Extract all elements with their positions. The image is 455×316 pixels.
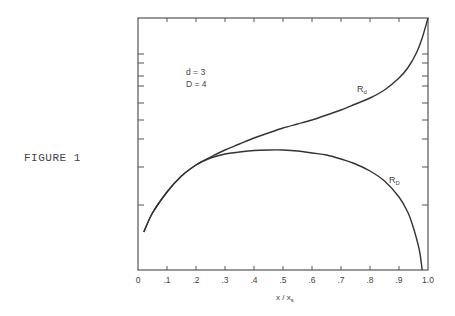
label-Rd: Rd — [357, 84, 367, 95]
curve-Rd — [144, 18, 428, 232]
curves — [144, 18, 428, 270]
x-tick-label: .5 — [279, 275, 286, 285]
x-axis-label: x / xs — [276, 293, 294, 303]
y-axis-ticks — [138, 54, 428, 205]
x-tick-label: 0 — [136, 275, 141, 285]
x-axis-ticks — [167, 18, 399, 270]
x-tick-label: .2 — [192, 275, 199, 285]
x-tick-label: .9 — [395, 275, 402, 285]
chart: 0.1.2.3.4.5.6.7.8.91.0 x / xs d = 3 D = … — [0, 0, 455, 316]
x-tick-label: .7 — [337, 275, 344, 285]
plot-frame — [138, 18, 428, 270]
annotation-d: d = 3 — [186, 67, 205, 77]
x-tick-label: .6 — [308, 275, 315, 285]
annotation-D: D = 4 — [186, 79, 207, 89]
x-axis-tick-labels: 0.1.2.3.4.5.6.7.8.91.0 — [136, 275, 435, 285]
curve-RD — [144, 150, 422, 270]
label-RD: RD — [389, 175, 401, 186]
x-tick-label: 1.0 — [422, 275, 434, 285]
x-tick-label: .8 — [366, 275, 373, 285]
x-tick-label: .1 — [163, 275, 170, 285]
x-tick-label: .4 — [250, 275, 257, 285]
x-tick-label: .3 — [221, 275, 228, 285]
